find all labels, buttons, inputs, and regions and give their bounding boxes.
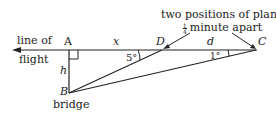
- caption-line-1: two positions of plane,: [161, 9, 276, 21]
- label-D: D: [156, 36, 165, 48]
- label-angle-D: 5°: [126, 52, 137, 64]
- label-h: h: [60, 65, 67, 77]
- angle-arc-C: [228, 50, 229, 56]
- label-C: C: [258, 36, 266, 48]
- label-line-of: line of: [17, 35, 52, 47]
- segment-BD: [69, 50, 162, 93]
- label-B: B: [60, 86, 68, 98]
- pointer-to-C: [232, 33, 253, 47]
- fraction-quarter: 1 4: [183, 23, 187, 34]
- fraction-denominator: 4: [183, 29, 187, 34]
- label-A: A: [64, 36, 72, 48]
- angle-arc-D: [138, 50, 140, 60]
- label-d: d: [207, 36, 214, 48]
- caption-line-2: 1 4 minute apart: [183, 22, 262, 34]
- pointer-to-D: [166, 33, 190, 47]
- label-bridge: bridge: [53, 99, 89, 111]
- label-x: x: [113, 36, 119, 48]
- caption-minute-apart: minute apart: [190, 21, 262, 34]
- pointer-C-head: [250, 44, 256, 49]
- right-angle-mark: [69, 50, 78, 59]
- segment-BC: [69, 50, 256, 93]
- label-angle-C: 1°: [210, 50, 220, 62]
- label-flight: flight: [19, 54, 48, 66]
